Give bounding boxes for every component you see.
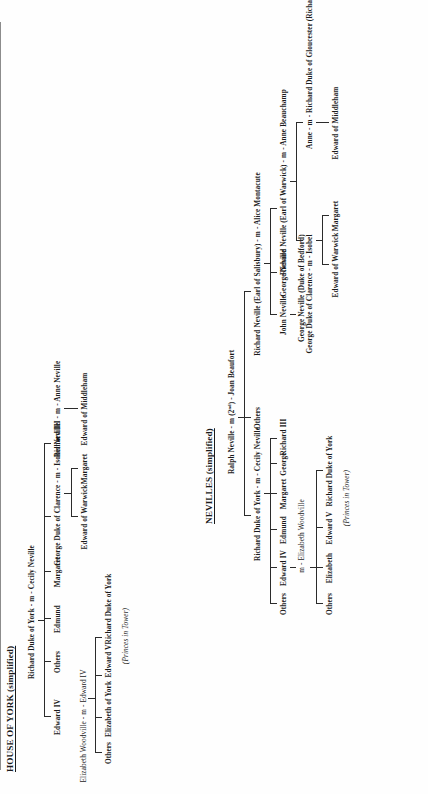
- nevilles-warwick-stub-1: [296, 122, 303, 123]
- nevilles-york-stub-1: [270, 567, 277, 568]
- nevilles-warwick-bus: [296, 123, 297, 241]
- nevilles-eiv-stub-1: [316, 567, 323, 568]
- york-child-stub-1: [44, 661, 51, 662]
- york-clarence-stub-1: [71, 468, 78, 469]
- nevilles-eiv-stub-2: [316, 527, 323, 528]
- nevilles-salisbury-stub-2: [270, 208, 277, 209]
- nevilles-anne-marriage: Anne - m - Richard Duke of Gloucester (R…: [306, 0, 313, 149]
- nevilles-princes-note: (Princes in Tower): [343, 470, 350, 526]
- nevilles-john-drop: [290, 314, 296, 315]
- nevilles-york-child-others: Others: [280, 593, 287, 615]
- nevilles-isobel-stub-0: [322, 264, 329, 265]
- nevilles-york-child-margaret: Margaret: [280, 479, 287, 510]
- nevilles-root-bus: [244, 292, 245, 516]
- york-edward-iv-marriage: Elizabeth Woodville - m - Edward IV: [80, 669, 87, 782]
- york-child-stub-2: [44, 618, 51, 619]
- nevilles-root-stub-0: [244, 515, 251, 516]
- york-title: HOUSE OF YORK (simplified): [6, 646, 15, 772]
- nevilles-anne-stub-0: [322, 122, 329, 123]
- nevilles-isobel-bus: [322, 216, 323, 265]
- york-child-edward-iv: Edward IV: [54, 699, 61, 735]
- nevilles-york-child-richard-iii: Richard III: [280, 419, 287, 456]
- nevilles-salisbury-child-john: John Neville: [280, 295, 287, 335]
- york-eiv-stub-0: [95, 752, 102, 753]
- nevilles-eiv-bus: [316, 471, 317, 604]
- nevilles-york-stub-3: [270, 493, 277, 494]
- nevilles-root-stub-1: [244, 417, 251, 418]
- nevilles-york-stub-4: [270, 463, 277, 464]
- york-eiv-stub-1: [95, 717, 102, 718]
- york-child-richard-iii: Richard III - m - Anne Neville: [54, 361, 61, 458]
- york-eiv-drop: [88, 698, 95, 699]
- york-r3-stub-0: [71, 408, 78, 409]
- nevilles-york-child-edmund: Edmund: [280, 516, 287, 544]
- york-clarence-child-edward-of-warwick: Edward of Warwick: [81, 485, 88, 550]
- york-child-stub-5: [44, 443, 51, 444]
- york-eiv-child-richard-duke-of-york: Richard Duke of York: [105, 574, 112, 645]
- york-child-stub-0: [44, 716, 51, 717]
- nevilles-isobel-stub-1: [322, 215, 329, 216]
- nevilles-anne-child-edward-of-middleham: Edward of Middleham: [332, 87, 339, 160]
- nevilles-eiv-child-elizabeth: Elizabeth: [326, 553, 333, 584]
- york-eiv-stub-3: [95, 637, 102, 638]
- york-r3-drop: [64, 408, 71, 409]
- york-clarence-stub-0: [71, 516, 78, 517]
- york-clarence-drop: [64, 493, 71, 494]
- york-child-stub-3: [44, 571, 51, 572]
- nevilles-child-york: Richard Duke of York - m - Cecily Nevill…: [254, 427, 261, 561]
- rotated-content: HOUSE OF YORK (simplified) Richard Duke …: [0, 0, 428, 794]
- nevilles-york-stub-0: [270, 603, 277, 604]
- york-child-others: Others: [54, 651, 61, 673]
- york-r3-child-edward-of-middleham: Edward of Middleham: [81, 373, 88, 446]
- nevilles-eiv-child-others: Others: [326, 593, 333, 615]
- nevilles-eiv-stub-3: [316, 470, 323, 471]
- nevilles-york-child-edward-iv: Edward IV: [280, 550, 287, 586]
- nevilles-child-salisbury: Richard Neville (Earl of Salisbury) - m …: [254, 172, 261, 355]
- nevilles-eiv-marriage: m - Elizabeth Woodville: [298, 499, 305, 573]
- nevilles-salisbury-child-warwick: Richard Neville (Earl of Warwick) - m - …: [280, 89, 287, 275]
- york-clarence-bus: [71, 469, 72, 517]
- york-eiv-child-edward-v: Edward V: [105, 645, 112, 678]
- york-sibling-bus: [44, 444, 45, 717]
- nevilles-child-others: Others: [254, 407, 261, 429]
- nevilles-eiv-stub-0: [316, 603, 323, 604]
- york-princes-note: (Princes in Tower): [122, 608, 129, 664]
- nevilles-root-stub-2: [244, 291, 251, 292]
- nevilles-eiv-drop: [290, 567, 296, 568]
- nevilles-isobel-marriage: George Duke of Clarence - m - Isobel: [306, 234, 313, 353]
- nevilles-salisbury-stub-1: [270, 272, 277, 273]
- nevilles-warwick-stub-0: [296, 240, 303, 241]
- nevilles-eiv-child-edward-v: Edward V: [326, 512, 333, 545]
- york-eiv-child-others: Others: [105, 742, 112, 764]
- york-eiv-child-elizabeth-of-york: Elizabeth of York: [105, 681, 112, 737]
- document-page: HOUSE OF YORK (simplified) Richard Duke …: [0, 0, 428, 794]
- nevilles-york-stub-2: [270, 529, 277, 530]
- nevilles-salisbury-bus: [270, 209, 271, 315]
- nevilles-root-tail: ) - Joan Beaufort: [227, 350, 236, 405]
- york-child-edmund: Edmund: [54, 605, 61, 633]
- nevilles-york-stub-5: [270, 438, 277, 439]
- york-eiv-stub-2: [95, 675, 102, 676]
- section-divider: [0, 22, 1, 770]
- york-root: Richard Duke of York - m - Cecily Nevill…: [28, 545, 35, 679]
- york-eiv-bus: [95, 638, 96, 753]
- york-clarence-child-margaret: Margaret: [81, 454, 88, 485]
- nevilles-salisbury-stub-0: [270, 314, 277, 315]
- nevilles-isobel-child-edward-of-warwick: Edward of Warwick: [332, 233, 339, 298]
- nevilles-root-sup: nd: [227, 404, 232, 409]
- nevilles-title: NEVILLES (simplified): [205, 428, 214, 524]
- nevilles-eiv-child-richard-duke-of-york: Richard Duke of York: [326, 436, 333, 507]
- nevilles-york-child-george: George: [280, 452, 287, 475]
- nevilles-root: Ralph Neville - m (2nd) - Joan Beaufort: [228, 350, 236, 474]
- york-child-stub-4: [44, 516, 51, 517]
- york-root-drop: [38, 620, 44, 621]
- nevilles-root-head: Ralph Neville - m (2: [227, 410, 236, 474]
- nevilles-isobel-child-margaret: Margaret: [332, 201, 339, 232]
